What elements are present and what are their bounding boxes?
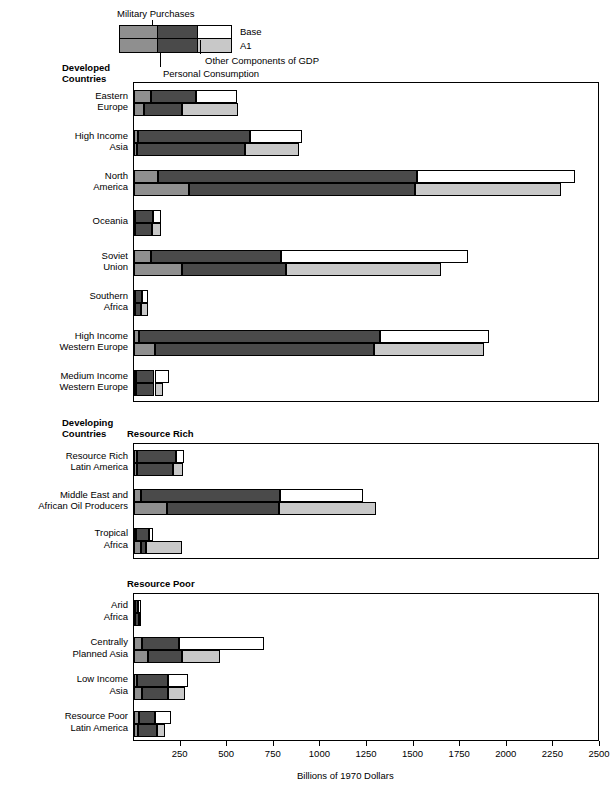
segment-other-components xyxy=(415,183,560,196)
legend-swatch-other-a1 xyxy=(198,39,231,52)
segment-personal-consumption xyxy=(151,250,281,263)
subgroup-heading-resource-rich: Resource Rich xyxy=(127,428,194,439)
x-tick-label: 1750 xyxy=(434,748,484,759)
segment-personal-consumption xyxy=(148,650,182,663)
category-label-line: Arid xyxy=(0,599,128,611)
bar-row xyxy=(134,528,600,541)
segment-other-components xyxy=(380,330,489,343)
category-label-line: Tropical xyxy=(0,527,128,539)
segment-personal-consumption xyxy=(142,637,178,650)
segment-other-components xyxy=(168,674,189,687)
bar-row xyxy=(134,303,600,316)
segment-personal-consumption xyxy=(135,290,142,303)
segment-military-purchases xyxy=(134,650,148,663)
category-label-line: Western Europe xyxy=(0,341,128,353)
segment-military-purchases xyxy=(134,343,155,356)
x-tick-mark xyxy=(273,741,274,746)
segment-other-components xyxy=(141,303,148,316)
segment-other-components xyxy=(155,711,171,724)
segment-military-purchases xyxy=(134,250,151,263)
category-label-line: Resource Rich xyxy=(0,450,128,462)
legend-label-other: Other Components of GDP xyxy=(205,55,319,66)
category-label-line: Southern xyxy=(0,290,128,302)
bar-row xyxy=(134,370,600,383)
segment-personal-consumption xyxy=(139,330,380,343)
segment-military-purchases xyxy=(134,502,167,515)
category-label-line: North xyxy=(0,170,128,182)
x-tick-label: 250 xyxy=(155,748,205,759)
segment-military-purchases xyxy=(134,687,142,700)
segment-other-components xyxy=(280,489,363,502)
bar-row xyxy=(134,103,600,116)
segment-other-components xyxy=(196,90,236,103)
legend-swatch-box xyxy=(119,25,232,53)
category-label: Medium IncomeWestern Europe xyxy=(0,370,128,393)
category-label-line: Africa xyxy=(0,301,128,313)
group-heading-developed-line1: Developed xyxy=(62,62,110,74)
x-tick-label: 1000 xyxy=(294,748,344,759)
segment-other-components xyxy=(153,210,161,223)
legend-label-personal: Personal Consumption xyxy=(163,68,259,79)
segment-personal-consumption xyxy=(138,130,250,143)
segment-military-purchases xyxy=(134,103,144,116)
segment-other-components xyxy=(417,170,575,183)
segment-personal-consumption xyxy=(158,170,417,183)
category-label: SovietUnion xyxy=(0,250,128,273)
axis-title: Billions of 1970 Dollars xyxy=(297,770,394,781)
x-tick-mark xyxy=(366,741,367,746)
legend-label-base: Base xyxy=(240,26,262,37)
segment-other-components xyxy=(245,143,299,156)
category-label-line: Centrally xyxy=(0,636,128,648)
panel-resource-poor xyxy=(133,593,599,741)
bar-row xyxy=(134,290,600,303)
bar-row xyxy=(134,170,600,183)
x-tick-mark xyxy=(226,741,227,746)
category-label-line: Asia xyxy=(0,141,128,153)
segment-military-purchases xyxy=(134,263,182,276)
segment-personal-consumption xyxy=(189,183,415,196)
segment-military-purchases xyxy=(134,637,142,650)
x-tick-label: 750 xyxy=(248,748,298,759)
chart-container: Military Purchases Base A1 Other Compone… xyxy=(0,0,610,796)
segment-personal-consumption xyxy=(142,687,168,700)
category-label: SouthernAfrica xyxy=(0,290,128,313)
category-label-line: Middle East and xyxy=(0,489,128,501)
x-tick-mark xyxy=(413,741,414,746)
category-label-line: Africa xyxy=(0,539,128,551)
segment-other-components xyxy=(149,528,153,541)
x-tick-mark xyxy=(506,741,507,746)
segment-military-purchases xyxy=(134,90,151,103)
segment-personal-consumption xyxy=(151,90,197,103)
bar-row xyxy=(134,330,600,343)
bar-row xyxy=(134,541,600,554)
group-heading-developing-line1: Developing xyxy=(62,417,113,429)
bar-row xyxy=(134,489,600,502)
segment-personal-consumption xyxy=(137,450,176,463)
segment-personal-consumption xyxy=(135,303,142,316)
segment-other-components xyxy=(168,687,185,700)
category-label: NorthAmerica xyxy=(0,170,128,193)
bar-row xyxy=(134,463,600,476)
legend-label-military: Military Purchases xyxy=(117,8,195,19)
category-label-line: Soviet xyxy=(0,250,128,262)
category-label: AridAfrica xyxy=(0,599,128,622)
category-label: Resource RichLatin America xyxy=(0,450,128,473)
segment-military-purchases xyxy=(134,183,189,196)
category-label-line: High Income xyxy=(0,130,128,142)
segment-other-components xyxy=(138,600,142,613)
segment-other-components xyxy=(146,541,181,554)
legend-label-a1: A1 xyxy=(240,40,252,51)
category-label-line: Africa xyxy=(0,611,128,623)
segment-other-components xyxy=(374,343,485,356)
segment-personal-consumption xyxy=(137,674,168,687)
category-label: EasternEurope xyxy=(0,90,128,113)
bar-row xyxy=(134,250,600,263)
segment-military-purchases xyxy=(134,489,141,502)
bar-row xyxy=(134,724,600,737)
panel-resource-rich xyxy=(133,443,599,559)
category-label-line: High Income xyxy=(0,330,128,342)
segment-other-components xyxy=(179,637,265,650)
segment-other-components xyxy=(157,724,164,737)
segment-military-purchases xyxy=(134,170,158,183)
bar-row xyxy=(134,600,600,613)
